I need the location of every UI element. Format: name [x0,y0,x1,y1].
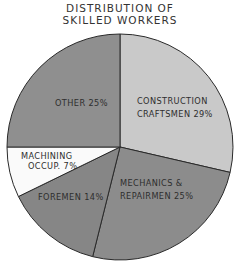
pie-slices [7,34,233,260]
pie-slice [7,34,120,147]
slice-label-other: OTHER 25% [55,98,108,108]
label-other: OTHER 25% [55,98,108,108]
label-construction-line-2: CRAFTSMEN 29% [137,109,213,119]
label-construction-line-1: CONSTRUCTION [137,96,208,106]
slice-label-machining: MACHINING OCCUP. 7% [21,151,77,171]
pie-chart: CONSTRUCTION CRAFTSMEN 29% MECHANICS & R… [0,0,240,269]
slice-label-foremen: FOREMEN 14% [38,192,104,202]
label-mechanics-line-1: MECHANICS & [120,178,183,188]
label-foremen: FOREMEN 14% [38,192,104,202]
label-machining-line-2: OCCUP. 7% [28,161,77,171]
label-machining-line-1: MACHINING [21,151,72,161]
label-mechanics-line-2: REPAIRMEN 25% [120,191,193,201]
